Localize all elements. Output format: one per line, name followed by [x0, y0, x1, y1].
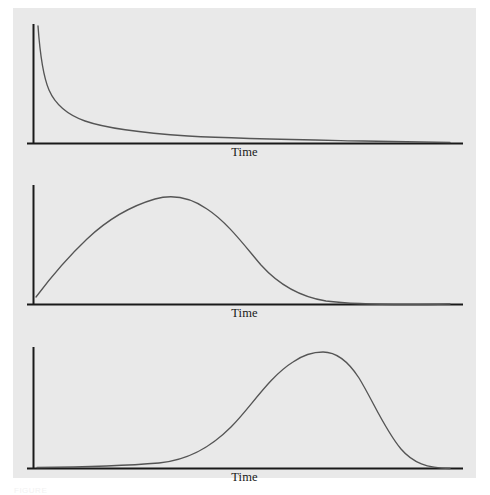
- chart-skewed: Time: [13, 173, 476, 325]
- chart-decay-plot: [13, 14, 476, 164]
- chart-skewed-x-axis-label: Time: [13, 306, 476, 321]
- chart-bell: Time: [13, 333, 476, 488]
- chart-bell-plot: [13, 333, 476, 488]
- figure-panel: Time Time Time: [13, 8, 476, 478]
- chart-decay-curve: [38, 26, 450, 143]
- chart-decay-x-axis-label: Time: [13, 145, 476, 160]
- chart-decay: Time: [13, 14, 476, 164]
- chart-skewed-curve: [36, 197, 450, 305]
- chart-skewed-plot: [13, 173, 476, 325]
- figure-caption: FIGURE: [14, 486, 47, 495]
- chart-bell-x-axis-label: Time: [13, 470, 476, 485]
- figure-container: Time Time Time: [0, 0, 490, 495]
- chart-bell-curve: [37, 352, 450, 469]
